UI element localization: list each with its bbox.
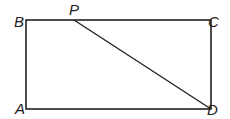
label-c: C (208, 13, 219, 30)
label-p: P (69, 1, 79, 18)
label-d: D (207, 101, 218, 118)
diagram-canvas: B P C A D (0, 0, 230, 119)
label-b: B (14, 13, 24, 30)
label-a: A (14, 100, 25, 117)
rectangle-abcd (26, 20, 211, 109)
segment-pd (74, 20, 211, 109)
